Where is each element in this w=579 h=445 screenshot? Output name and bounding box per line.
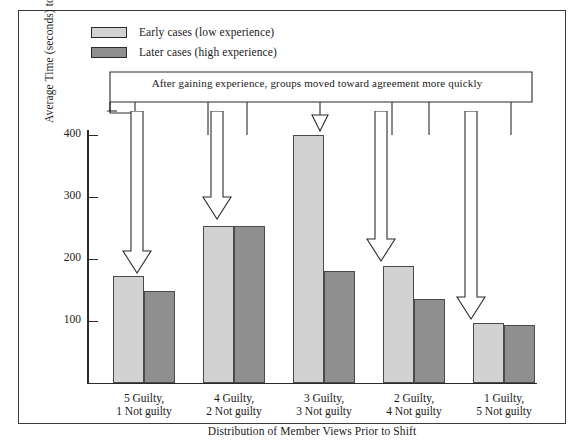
annotation-text: After gaining experience, groups moved t…: [107, 77, 527, 89]
bar-later: [504, 325, 535, 383]
bar-later: [144, 291, 175, 383]
x-category-line2: 5 Not guilty: [449, 405, 559, 418]
legend-label-early: Early cases (low experience): [139, 26, 274, 38]
x-axis-label: Distribution of Member Views Prior to Sh…: [87, 425, 537, 437]
plot-area: 400 300 200 100: [87, 116, 537, 384]
y-tick-label-200: 200: [64, 251, 81, 263]
legend-swatch-later: [91, 47, 127, 58]
y-axis-line: [87, 130, 89, 384]
figure-frame: Early cases (low experience) Later cases…: [18, 10, 566, 424]
legend-item-later: Later cases (high experience): [91, 43, 321, 61]
y-tick-label-400: 400: [64, 127, 81, 139]
bar-early: [293, 135, 324, 383]
bar-early: [473, 323, 504, 382]
x-category-line1: 1 Guilty,: [449, 392, 559, 405]
bar-early: [203, 226, 234, 383]
bar-later: [324, 271, 355, 383]
x-axis-line: [87, 383, 537, 385]
y-tick-label-300: 300: [64, 189, 81, 201]
x-category-label: 1 Guilty, 5 Not guilty: [449, 392, 559, 418]
chart-legend: Early cases (low experience) Later cases…: [91, 23, 321, 63]
bar-later: [234, 226, 265, 382]
bar-later: [414, 299, 445, 382]
bar-early: [383, 266, 414, 383]
legend-swatch-early: [91, 27, 127, 38]
y-tick-label-100: 100: [64, 313, 81, 325]
y-axis-label: Average Time (seconds) to Shifts in Memb…: [43, 0, 55, 123]
bar-early: [113, 276, 144, 383]
legend-item-early: Early cases (low experience): [91, 23, 321, 41]
legend-label-later: Later cases (high experience): [139, 46, 277, 58]
